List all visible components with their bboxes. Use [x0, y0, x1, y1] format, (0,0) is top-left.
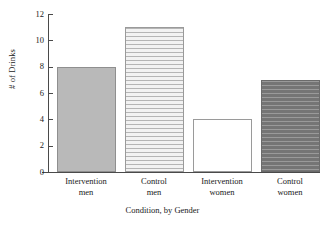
y-tick-mark — [48, 14, 53, 15]
y-tick-label: 10 — [36, 35, 45, 45]
bar — [193, 119, 252, 172]
x-axis-category-label: Interventionmen — [49, 176, 124, 198]
y-tick-label: 8 — [40, 61, 44, 71]
x-axis-category-label: Controlmen — [117, 176, 192, 198]
x-axis-line — [42, 172, 320, 173]
bar — [125, 27, 184, 172]
y-tick-label: 12 — [36, 9, 45, 19]
x-axis-category-label-line: Control — [117, 176, 192, 187]
x-axis-category-label-line: Control — [253, 176, 325, 187]
x-axis-category-label-line: women — [185, 187, 260, 198]
y-axis-title: # of Drinks — [7, 29, 17, 109]
y-tick-label: 2 — [40, 140, 44, 150]
y-tick-label: 0 — [40, 167, 44, 177]
x-axis-category-label-line: men — [49, 187, 124, 198]
y-tick-label: 4 — [40, 114, 44, 124]
x-axis-title: Condition, by Gender — [0, 205, 325, 215]
x-axis-category-label-line: Intervention — [185, 176, 260, 187]
x-axis-category-label-line: men — [117, 187, 192, 198]
x-axis-category-label: Controlwomen — [253, 176, 325, 198]
x-axis-category-label-line: women — [253, 187, 325, 198]
bar — [57, 67, 116, 172]
y-tick-mark — [48, 93, 53, 94]
bar-chart: # of Drinks 024681012 InterventionmenCon… — [0, 0, 325, 228]
y-tick-label: 6 — [40, 88, 44, 98]
plot-area: 024681012 — [48, 14, 320, 172]
y-tick-mark — [48, 119, 53, 120]
y-tick-mark — [48, 146, 53, 147]
bar — [261, 80, 320, 172]
y-tick-mark — [48, 40, 53, 41]
x-axis-category-label: Interventionwomen — [185, 176, 260, 198]
y-tick-mark — [48, 67, 53, 68]
y-tick-mark — [48, 172, 53, 173]
x-axis-category-label-line: Intervention — [49, 176, 124, 187]
